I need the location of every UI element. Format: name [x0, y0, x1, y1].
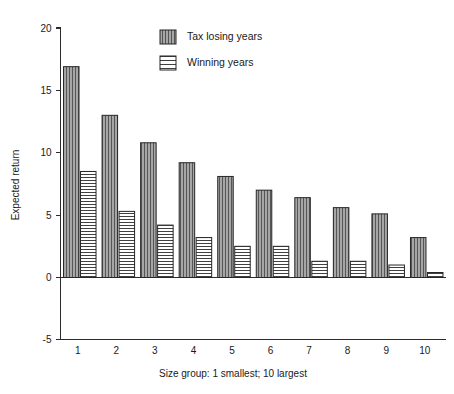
- legend-swatch-tax-losing-years: [160, 30, 176, 44]
- x-tick-label: 5: [229, 345, 235, 356]
- bar-winning-years-group-6: [273, 246, 289, 277]
- bar-winning-years-group-9: [389, 265, 405, 277]
- bar-tax-losing-years-group-4: [179, 163, 195, 278]
- x-tick-label: 9: [383, 345, 389, 356]
- bar-tax-losing-years-group-5: [218, 176, 234, 277]
- y-tick-label: 10: [40, 147, 52, 158]
- bar-winning-years-group-8: [350, 261, 366, 277]
- legend-label-tax-losing-years: Tax losing years: [187, 30, 262, 42]
- x-tick-label: 8: [345, 345, 351, 356]
- bar-winning-years-group-5: [235, 246, 251, 277]
- x-tick-label: 1: [75, 345, 81, 356]
- bar-tax-losing-years-group-2: [102, 115, 118, 277]
- y-axis-title: Expected return: [10, 150, 21, 221]
- y-tick-label: 15: [40, 85, 52, 96]
- x-tick-label: 3: [152, 345, 158, 356]
- x-tick-label: 7: [306, 345, 312, 356]
- bar-winning-years-group-4: [196, 238, 212, 278]
- y-tick-label: 20: [40, 23, 52, 34]
- bar-winning-years-group-2: [119, 211, 135, 277]
- bar-tax-losing-years-group-8: [333, 208, 349, 278]
- x-axis-title: Size group: 1 smallest; 10 largest: [159, 368, 307, 379]
- bar-tax-losing-years-group-6: [256, 190, 272, 277]
- legend-swatch-winning-years: [160, 56, 176, 70]
- y-axis-ticks: 20151050-5: [40, 23, 60, 346]
- y-tick-label: 5: [46, 210, 52, 221]
- bar-tax-losing-years-group-9: [372, 214, 388, 278]
- expected-return-bar-chart: 20151050-5 12345678910 Tax losing years …: [0, 0, 454, 394]
- chart-container: 20151050-5 12345678910 Tax losing years …: [0, 0, 454, 394]
- bar-winning-years-group-1: [81, 171, 97, 277]
- x-tick-label: 2: [114, 345, 120, 356]
- x-tick-label: 10: [419, 345, 431, 356]
- plot-frame: [61, 28, 447, 340]
- legend: Tax losing years Winning years: [160, 30, 262, 70]
- bar-winning-years-group-3: [158, 225, 174, 277]
- y-tick-label: 0: [46, 272, 52, 283]
- bar-tax-losing-years-group-3: [141, 143, 157, 278]
- x-axis-ticks: 12345678910: [75, 345, 431, 356]
- bar-winning-years-group-7: [312, 261, 328, 277]
- y-tick-label: -5: [43, 334, 52, 345]
- bar-tax-losing-years-group-7: [295, 198, 311, 278]
- x-tick-label: 4: [191, 345, 197, 356]
- bar-tax-losing-years-group-1: [64, 67, 80, 278]
- x-tick-label: 6: [268, 345, 274, 356]
- bar-winning-years-group-10: [427, 273, 443, 278]
- bar-tax-losing-years-group-10: [410, 238, 426, 278]
- bars-group: [64, 67, 443, 278]
- legend-label-winning-years: Winning years: [187, 56, 254, 68]
